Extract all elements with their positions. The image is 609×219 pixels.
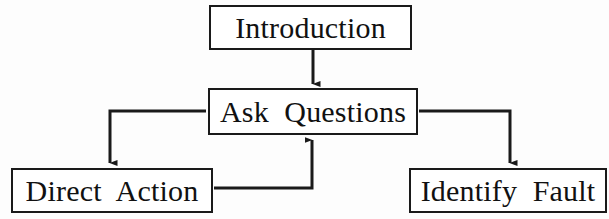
edge-direct-action-to-ask-questions [214, 140, 312, 188]
node-introduction-label: Introduction [235, 13, 386, 43]
node-direct-action[interactable]: Direct Action [11, 168, 213, 213]
node-introduction[interactable]: Introduction [209, 5, 412, 50]
node-ask-questions-label: Ask Questions [220, 97, 406, 127]
node-identify-fault[interactable]: Identify Fault [409, 168, 607, 213]
flowchart-canvas: Introduction Ask Questions Direct Action… [0, 0, 609, 219]
node-ask-questions[interactable]: Ask Questions [208, 88, 418, 135]
node-identify-fault-label: Identify Fault [421, 176, 596, 206]
node-direct-action-label: Direct Action [26, 176, 199, 206]
edge-ask-questions-to-direct-action [110, 111, 206, 163]
edge-ask-questions-to-identify-fault [419, 111, 510, 163]
